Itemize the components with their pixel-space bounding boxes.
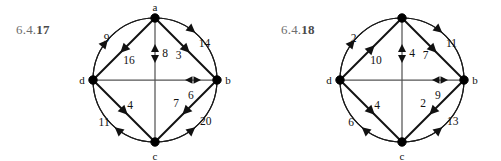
- exercise-number-id: 17: [36, 22, 49, 37]
- exercise-number-18: 6.4.18: [281, 22, 315, 38]
- vertex-dot-c: [398, 138, 406, 146]
- vertex-dot-a: [398, 14, 406, 22]
- weight-label-arc-c-d: 6: [348, 116, 354, 128]
- vertex-label-d: d: [326, 74, 332, 86]
- vertex-dot-d: [336, 76, 344, 84]
- arrowhead-chord-a-c-up: [151, 44, 159, 52]
- exercise-number-prefix: 6.4.: [281, 22, 301, 37]
- figure-6-4-17: 6.4.17 91683146411720abcd: [0, 0, 250, 161]
- weight-label-chord-a-d: 16: [123, 54, 135, 66]
- arrowhead-chord-a-c-down: [151, 55, 159, 63]
- arrowhead-chord-d-b-left: [432, 76, 440, 84]
- vertex-label-a: a: [153, 1, 158, 13]
- weight-label-arc-d-a: 2: [351, 32, 357, 44]
- arrowhead-chord-d-b-right: [441, 76, 449, 84]
- graph-diagram-18: 2104711946213bcd: [320, 0, 485, 161]
- weight-label-arc-c-d: 11: [99, 116, 110, 128]
- vertex-label-b: b: [225, 74, 231, 86]
- figure-6-4-18: 6.4.18 2104711946213bcd: [250, 0, 501, 161]
- vertex-dot-b: [460, 76, 468, 84]
- exercise-number-prefix: 6.4.: [16, 22, 36, 37]
- vertex-dot-c: [151, 138, 159, 146]
- weight-label-chord-d-b: 6: [188, 89, 194, 101]
- weight-label-chord-d-a: 10: [370, 54, 382, 66]
- weight-label-arc-d-a: 9: [104, 32, 110, 44]
- arrowhead-arc-c-b: [433, 127, 443, 136]
- exercise-figures-page: 6.4.17 91683146411720abcd 6.4.18 2104711…: [0, 0, 501, 161]
- weight-label-chord-d-c: 4: [127, 99, 133, 111]
- vertex-dot-a: [151, 14, 159, 22]
- arrowhead-arc-a-b: [186, 24, 196, 33]
- weight-label-chord-a-c: 8: [162, 47, 168, 59]
- arrowhead-chord-d-b-left: [185, 76, 193, 84]
- arrowhead-chord-a-c-up: [398, 44, 406, 52]
- arrowhead-arc-a-b: [433, 24, 443, 33]
- arrowhead-arc-c-b: [186, 127, 196, 136]
- arrowhead-chord-d-b-right: [194, 76, 202, 84]
- weight-label-arc-a-b: 14: [199, 37, 211, 49]
- vertex-dot-d: [89, 76, 97, 84]
- vertex-label-c: c: [400, 150, 405, 161]
- weight-label-arc-c-b: 20: [200, 115, 212, 127]
- weight-label-chord-a-b: 3: [176, 49, 182, 61]
- arrowhead-arc-c-d: [115, 127, 125, 136]
- weight-label-chord-d-b: 9: [435, 89, 441, 101]
- vertex-label-d: d: [79, 74, 85, 86]
- weight-label-chord-a-c: 4: [409, 47, 415, 59]
- weight-label-chord-b-c: 7: [173, 97, 179, 109]
- weight-label-chord-d-c: 4: [374, 99, 380, 111]
- weight-label-arc-c-b: 13: [447, 115, 459, 127]
- arrowhead-chord-a-c-down: [398, 55, 406, 63]
- exercise-number-17: 6.4.17: [16, 22, 50, 38]
- weight-label-chord-a-b: 7: [423, 49, 429, 61]
- exercise-number-id: 18: [301, 22, 314, 37]
- vertex-dot-b: [213, 76, 221, 84]
- vertex-label-b: b: [472, 74, 478, 86]
- graph-diagram-17: 91683146411720abcd: [75, 0, 235, 161]
- weight-label-chord-b-c: 2: [420, 97, 426, 109]
- weight-label-arc-a-b: 11: [446, 37, 457, 49]
- vertex-label-c: c: [153, 150, 158, 161]
- arrowhead-arc-c-d: [362, 127, 372, 136]
